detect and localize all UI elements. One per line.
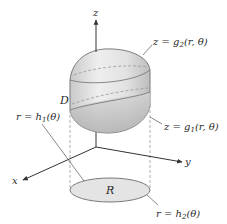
- x-axis-label: x: [12, 175, 18, 186]
- z-axis-label: z: [92, 7, 99, 18]
- bottom-surface-label: z = g1(r, θ): [163, 121, 219, 134]
- y-axis: [96, 147, 182, 162]
- inner-boundary-label: r = h1(θ): [16, 111, 60, 124]
- leader-h2: [147, 195, 158, 205]
- solid-d-label: D: [59, 94, 69, 107]
- y-axis-label: y: [184, 156, 191, 167]
- outer-boundary-label: r = h2(θ): [156, 208, 200, 221]
- leader-g1: [150, 117, 162, 124]
- leader-h1: [42, 124, 84, 181]
- diagram-canvas: z x y D R z = g2(r, θ) z = g1(r, θ) r = …: [0, 0, 227, 224]
- top-surface-label: z = g2(r, θ): [152, 36, 208, 49]
- x-axis: [23, 147, 96, 180]
- leader-g2: [143, 45, 152, 55]
- region-r-label: R: [105, 184, 114, 197]
